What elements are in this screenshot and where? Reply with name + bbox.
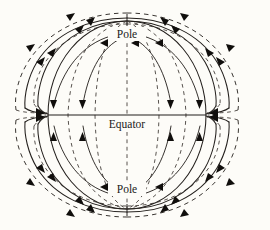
arrowhead-lower-pole-left (100, 183, 108, 191)
arrowhead-upper-pole-left (100, 39, 108, 47)
outer-dashed-loop-lower-left (16, 120, 128, 217)
arrowhead-exterior-dashed-ur-2 (226, 44, 235, 52)
arrowhead-lower-pole-right (155, 183, 163, 191)
arrowhead-upper-interior-3 (167, 100, 174, 109)
lower-meridian-right (136, 126, 171, 190)
arrowhead-exterior-dashed-ll-2 (66, 209, 75, 217)
arrowhead-exterior-solid-ul-4 (86, 17, 95, 26)
arrowhead-upper-pole-right (155, 39, 163, 47)
arrowhead-upper-interior-2 (79, 100, 86, 109)
arrowhead-exterior-dashed-ul-1 (26, 44, 35, 52)
arrowhead-exterior-dashed-lr-2 (180, 209, 189, 217)
south-pole-label: Pole (117, 183, 137, 195)
arrowhead-exterior-solid-ll-1 (36, 164, 45, 173)
north-pole-label: Pole (117, 28, 137, 40)
arrowhead-upper-interior-1 (50, 100, 57, 109)
arrowhead-upper-interior-4 (196, 100, 203, 109)
arrowhead-exterior-dashed-ll-1 (26, 178, 35, 186)
upper-meridian-far-right (143, 36, 200, 104)
upper-meridian-left (83, 40, 118, 104)
diagram-canvas: Pole Equator Pole (0, 0, 270, 230)
upper-meridian-far-left (54, 36, 111, 104)
labels-group: Pole Equator Pole (103, 27, 152, 196)
equator-label: Equator (109, 118, 146, 131)
arrowhead-exterior-dashed-lr-1 (226, 178, 235, 186)
outer-solid-loop-lower-right (127, 122, 229, 212)
lower-meridian-left (83, 126, 118, 190)
arrowhead-exterior-dashed-ur-1 (180, 13, 189, 21)
arrowhead-exterior-dashed-ul-2 (66, 13, 75, 21)
upper-meridian-right (136, 40, 171, 104)
dipole-field-diagram: Pole Equator Pole (0, 0, 270, 230)
arrowhead-lower-interior-3 (167, 132, 174, 141)
arrowhead-exterior-solid-ll-4 (86, 204, 95, 213)
